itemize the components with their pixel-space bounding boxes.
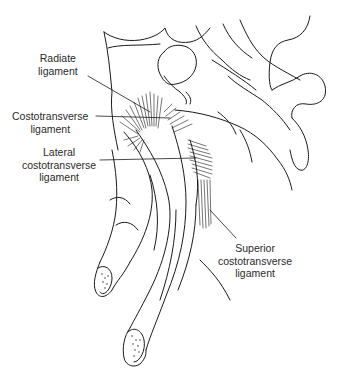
- label-costotransverse-ligament: Costotransverse ligament: [12, 110, 88, 135]
- label-superior-costotransverse-ligament: Superior costotransverse ligament: [218, 242, 292, 280]
- rib-outlines: [94, 126, 230, 366]
- vertebra-outline: [104, 16, 326, 190]
- superior-costotransverse-ligament-fibers: [198, 180, 211, 228]
- leader-lines: [88, 76, 236, 238]
- leader-superior: [210, 210, 236, 238]
- label-lateral-costotransverse-ligament: Lateral costotransverse ligament: [22, 146, 96, 184]
- leader-radiate: [88, 76, 150, 112]
- anatomy-diagram: Radiate ligament Costotransverse ligamen…: [0, 0, 341, 375]
- rib-cross-section-dots: [101, 273, 140, 356]
- label-radiate-ligament: Radiate ligament: [38, 52, 78, 77]
- radiate-ligament-fibers: [120, 92, 162, 152]
- leader-costotransverse: [96, 116, 170, 118]
